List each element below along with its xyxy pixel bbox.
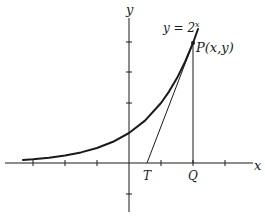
exponential-curve <box>23 29 198 160</box>
point-q-label: Q <box>188 169 198 183</box>
point-p-marker <box>191 41 195 45</box>
tangent-line <box>147 43 193 163</box>
point-t-label: T <box>143 169 152 183</box>
y-axis-label: y <box>125 2 134 17</box>
x-axis-label: x <box>254 158 262 173</box>
curve-label-base: y = 2 <box>162 21 195 35</box>
point-p-label: P(x,y) <box>195 40 234 55</box>
curve-label: y = 2x <box>162 20 200 35</box>
exponential-graph: y x y = 2x P(x,y) T Q <box>0 0 265 221</box>
curve-label-exponent: x <box>195 20 200 29</box>
